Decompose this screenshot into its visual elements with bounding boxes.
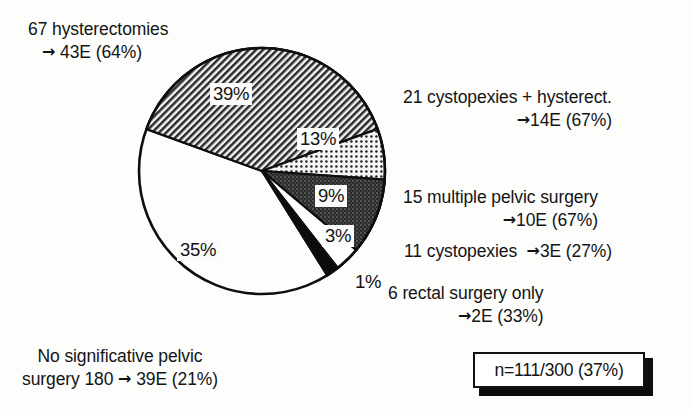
annotation-rectal-surgery-line2: →2E (33%) [388,305,543,328]
arrow-right-icon: → [503,209,516,230]
annotation-no-significative-result: 39E (21%) [136,369,218,389]
annotation-cystopexies-text: 11 cystopexies [404,241,517,261]
slice-label-1-percent: 1% [352,271,384,293]
arrow-right-icon: → [527,240,540,261]
total-count-value: n=111/300 (37%) [494,360,623,381]
annotation-multiple-pelvic-surgery-line1: 15 multiple pelvic surgery [403,186,598,209]
annotation-rectal-surgery-line1: 6 rectal surgery only [388,282,543,305]
annotation-cystopexies-hysterectomy-result: 14E (67%) [530,110,612,130]
annotation-hysterectomies-line2: → 43E (64%) [28,41,168,64]
slice-label-35-percent: 35% [177,239,219,261]
arrow-right-icon: → [458,305,471,326]
annotation-no-significative-line2: surgery 180 → 39E (21%) [22,368,218,391]
annotation-cystopexies-result: 3E (27%) [540,241,612,261]
annotation-cystopexies-hysterectomy-line2: →14E (67%) [403,109,612,132]
annotation-rectal-surgery-result: 2E (33%) [471,306,543,326]
annotation-no-significative-pelvic-surgery: No significative pelvic surgery 180 → 39… [22,345,218,391]
slice-label-9-percent: 9% [315,185,347,207]
annotation-no-significative-count: surgery 180 [22,369,113,389]
pie-chart-figure: 39% 13% 9% 3% 1% 35% 67 hysterectomies →… [0,0,692,409]
slice-label-13-percent: 13% [297,128,339,150]
annotation-multiple-pelvic-surgery-result: 10E (67%) [516,210,598,230]
annotation-cystopexies-line: 11 cystopexies →3E (27%) [404,240,612,263]
annotation-hysterectomies-line1: 67 hysterectomies [28,18,168,41]
annotation-cystopexies-hysterectomy: 21 cystopexies + hysterect. →14E (67%) [403,86,612,132]
annotation-multiple-pelvic-surgery-line2: →10E (67%) [403,209,598,232]
arrow-right-icon: → [42,41,55,62]
annotation-cystopexies: 11 cystopexies →3E (27%) [404,240,612,263]
annotation-rectal-surgery: 6 rectal surgery only →2E (33%) [388,282,543,328]
arrow-right-icon: → [517,109,530,130]
annotation-no-significative-line1: No significative pelvic [22,345,218,368]
annotation-cystopexies-hysterectomy-line1: 21 cystopexies + hysterect. [403,86,612,109]
annotation-multiple-pelvic-surgery: 15 multiple pelvic surgery →10E (67%) [403,186,598,232]
arrow-right-icon: → [118,368,131,389]
total-count-box-frame: n=111/300 (37%) [473,352,645,388]
total-count-box: n=111/300 (37%) [473,352,647,390]
slice-label-39-percent: 39% [210,83,252,105]
annotation-hysterectomies-result: 43E (64%) [60,42,142,62]
slice-label-3-percent: 3% [322,225,354,247]
annotation-hysterectomies: 67 hysterectomies → 43E (64%) [28,18,168,64]
